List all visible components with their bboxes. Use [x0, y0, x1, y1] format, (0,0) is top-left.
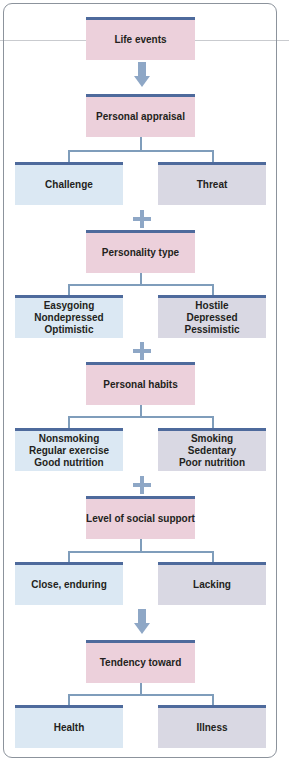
node-support-negative: Lacking	[158, 562, 266, 605]
node-life-events: Life events	[86, 17, 195, 60]
node-support-positive: Close, enduring	[15, 562, 123, 605]
node-challenge: Challenge	[15, 162, 123, 205]
connector-line	[140, 683, 142, 694]
node-tendency-toward: Tendency toward	[86, 640, 195, 683]
connector-line	[212, 284, 214, 295]
connector-line	[140, 137, 142, 150]
node-personality-negative: Hostile Depressed Pessimistic	[158, 295, 266, 338]
connector-line	[68, 551, 213, 553]
node-habits-negative: Smoking Sedentary Poor nutrition	[158, 428, 266, 471]
connector-line	[68, 150, 70, 162]
connector-line	[140, 405, 142, 416]
node-health: Health	[15, 705, 123, 748]
connector-line	[68, 284, 213, 286]
connector-line	[68, 694, 70, 705]
plus-icon	[133, 476, 151, 494]
connector-line	[212, 694, 214, 705]
down-arrow-icon	[134, 609, 150, 635]
plus-icon	[133, 210, 151, 228]
connector-line	[212, 416, 214, 428]
connector-line	[68, 694, 213, 696]
node-habits-positive: Nonsmoking Regular exercise Good nutriti…	[15, 428, 123, 471]
node-personal-appraisal: Personal appraisal	[86, 94, 195, 137]
connector-line	[68, 416, 213, 418]
connector-line	[68, 551, 70, 562]
node-threat: Threat	[158, 162, 266, 205]
connector-line	[212, 150, 214, 162]
plus-icon	[133, 342, 151, 360]
node-personality-positive: Easygoing Nondepressed Optimistic	[15, 295, 123, 338]
node-personal-habits: Personal habits	[86, 362, 195, 405]
connector-line	[140, 539, 142, 551]
connector-line	[140, 273, 142, 284]
connector-line	[68, 416, 70, 428]
connector-line	[212, 551, 214, 562]
node-personality-type: Personality type	[86, 230, 195, 273]
connector-line	[68, 284, 70, 295]
down-arrow-icon	[134, 62, 150, 88]
connector-line	[68, 150, 213, 152]
node-social-support: Level of social support	[86, 496, 195, 539]
node-illness: Illness	[158, 705, 266, 748]
